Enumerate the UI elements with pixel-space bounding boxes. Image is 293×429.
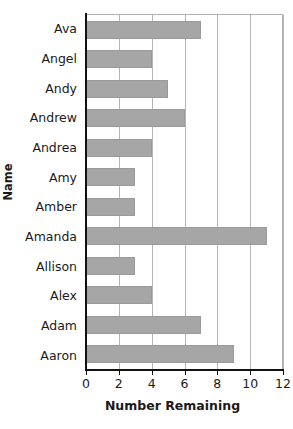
y-axis-line [85, 13, 87, 371]
x-axis-tick-label: 6 [181, 376, 189, 391]
bar[interactable] [86, 227, 267, 245]
bar[interactable] [86, 168, 135, 186]
bar-row [86, 192, 282, 222]
category-label: Allison [0, 251, 82, 281]
category-label: Alex [0, 281, 82, 311]
x-axis-title: Number Remaining [60, 398, 285, 413]
bar-row [86, 45, 282, 75]
bar-row [86, 74, 282, 104]
chart-title-clipped [0, 0, 293, 3]
x-axis-tick-label: 0 [82, 376, 90, 391]
bar[interactable] [86, 80, 168, 98]
x-axis-tick [283, 371, 284, 375]
bar[interactable] [86, 50, 152, 68]
bar[interactable] [86, 198, 135, 216]
x-axis-tick [217, 371, 218, 375]
bar[interactable] [86, 139, 152, 157]
plot-area [86, 14, 283, 370]
bar-series [86, 15, 282, 369]
bar[interactable] [86, 21, 201, 39]
category-axis-labels: AvaAngelAndyAndrewAndreaAmyAmberAmandaAl… [0, 14, 82, 370]
x-axis-tick-label: 12 [275, 376, 291, 391]
category-label: Amber [0, 192, 82, 222]
x-axis-tick [185, 371, 186, 375]
category-label: Andrew [0, 103, 82, 133]
category-label: Amy [0, 162, 82, 192]
bar-row [86, 133, 282, 163]
x-axis-tick [152, 371, 153, 375]
category-label: Andrea [0, 133, 82, 163]
category-label: Aaron [0, 340, 82, 370]
x-axis-tick-label: 8 [213, 376, 221, 391]
gridline [283, 15, 284, 369]
bar-row [86, 251, 282, 281]
x-axis-tick-label: 10 [242, 376, 258, 391]
bar-row [86, 222, 282, 252]
bar-row [86, 163, 282, 193]
bar-row [86, 340, 282, 370]
category-label: Andy [0, 73, 82, 103]
bar-row [86, 281, 282, 311]
bar[interactable] [86, 286, 152, 304]
bar[interactable] [86, 257, 135, 275]
bar-row [86, 310, 282, 340]
category-label: Ava [0, 14, 82, 44]
x-axis-tick-labels: 024681012 [86, 376, 283, 394]
x-axis-tick [86, 371, 87, 375]
bar[interactable] [86, 316, 201, 334]
x-axis-tick-label: 2 [115, 376, 123, 391]
bar-row [86, 104, 282, 134]
category-label: Angel [0, 44, 82, 74]
category-label: Adam [0, 311, 82, 341]
bar-row [86, 15, 282, 45]
x-axis-tick-label: 4 [148, 376, 156, 391]
bar-chart: Name AvaAngelAndyAndrewAndreaAmyAmberAma… [0, 0, 293, 429]
x-axis-tick [119, 371, 120, 375]
x-axis-tick [250, 371, 251, 375]
bar[interactable] [86, 109, 185, 127]
bar[interactable] [86, 345, 234, 363]
category-label: Amanda [0, 222, 82, 252]
